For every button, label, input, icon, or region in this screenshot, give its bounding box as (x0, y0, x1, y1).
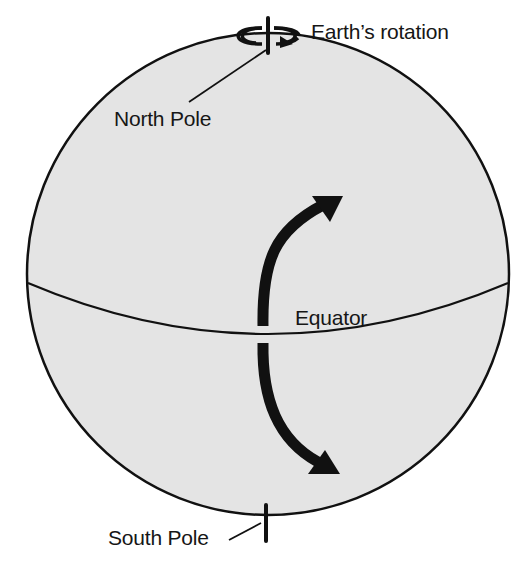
earth-diagram (0, 0, 515, 566)
equator-label: Equator (295, 307, 367, 328)
south-pole-leader (229, 523, 261, 540)
earth-rotation-label: Earth’s rotation (311, 21, 449, 42)
south-pole-label: South Pole (108, 527, 209, 548)
north-pole-label: North Pole (114, 108, 211, 129)
